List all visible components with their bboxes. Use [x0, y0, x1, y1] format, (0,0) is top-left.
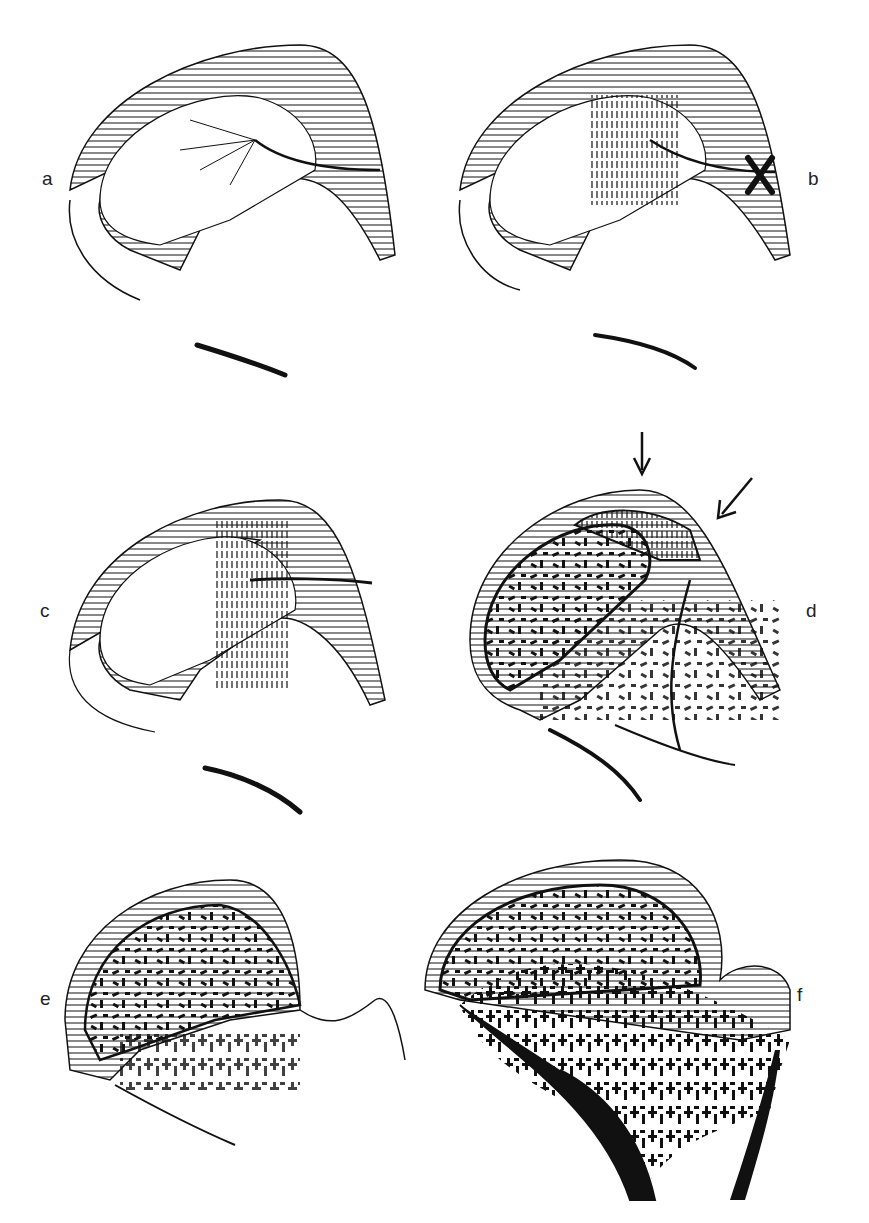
- panel-label-e: e: [40, 988, 51, 1010]
- panel-a: [69, 45, 395, 300]
- panel-label-a: a: [42, 168, 53, 190]
- panel-d: [470, 432, 780, 800]
- panel-f: [425, 860, 790, 1200]
- panel-label-f: f: [797, 984, 802, 1006]
- growth-plate-a: [197, 345, 285, 375]
- panel-c: [69, 500, 385, 732]
- panel-label-c: c: [40, 600, 50, 622]
- figure-canvas: [0, 0, 869, 1223]
- arrow-diagonal-icon: [718, 478, 752, 518]
- arrow-down-icon: [634, 432, 650, 474]
- growth-plate-c: [205, 768, 300, 812]
- panel-label-b: b: [808, 168, 819, 190]
- panel-b: [459, 45, 790, 290]
- growth-plate-b: [595, 335, 695, 368]
- panel-e: [65, 880, 405, 1145]
- panel-label-d: d: [806, 600, 817, 622]
